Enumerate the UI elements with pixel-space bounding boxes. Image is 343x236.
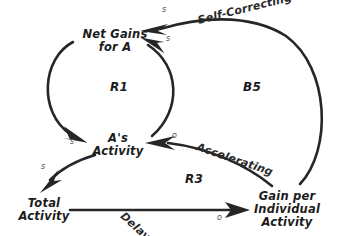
node-gain-per-individual-activity: Gain per Individual Activity bbox=[233, 190, 341, 229]
arrow-path-as-activity-to-net-gains bbox=[148, 45, 173, 136]
loop-label-r3: R3 bbox=[185, 172, 203, 186]
arrow-total-activity-to-gain-per-individual bbox=[70, 202, 250, 218]
arrow-as-activity-to-total-activity bbox=[40, 155, 95, 193]
loop-label-r1: R1 bbox=[110, 80, 128, 94]
node-total-activity: Total Activity bbox=[0, 197, 88, 223]
arrow-path-as-activity-to-total-activity bbox=[50, 155, 95, 180]
node-gain-per-individual-activity-line-3: Activity bbox=[233, 216, 341, 229]
polarity-total-activity: s bbox=[41, 162, 45, 171]
polarity-self-correcting: s bbox=[162, 5, 166, 14]
node-net-gains-for-a: Net Gains for A bbox=[0, 28, 230, 54]
polarity-delay: o bbox=[217, 213, 222, 222]
loop-label-b5: B5 bbox=[243, 80, 261, 94]
arrow-path-net-gains-to-as-activity bbox=[48, 42, 73, 134]
arrow-net-gains-to-as-activity bbox=[48, 42, 89, 143]
causal-loop-diagram: Net Gains for A A's Activity Total Activ… bbox=[0, 0, 343, 236]
node-total-activity-line-2: Activity bbox=[0, 210, 88, 223]
polarity-accelerating: o bbox=[172, 131, 177, 140]
node-net-gains-for-a-line-2: for A bbox=[0, 41, 230, 54]
polarity-b5-inner: s bbox=[166, 34, 170, 43]
polarity-r1-to-activity: s bbox=[70, 137, 74, 146]
